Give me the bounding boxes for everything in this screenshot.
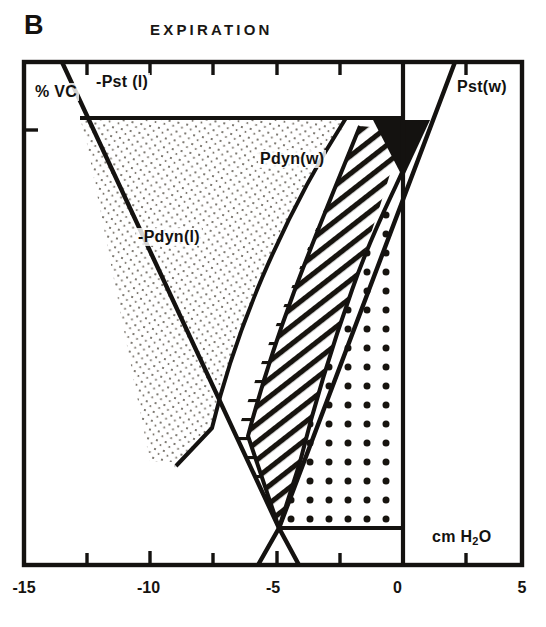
y-axis-label: % VC <box>33 83 79 101</box>
x-tick-label-0: 0 <box>393 580 402 596</box>
label-pst-w: Pst(w) <box>455 78 509 96</box>
unit-cm-h2o-text: cm H2O <box>432 528 492 545</box>
x-tick-label-minus10: -10 <box>137 580 160 596</box>
figure-title: EXPIRATION <box>150 22 273 37</box>
x-tick-label-minus15: -15 <box>12 580 35 596</box>
x-tick-label-minus5: -5 <box>266 580 280 596</box>
label-pdyn-l: -Pdyn(l) <box>136 228 202 246</box>
x-axis-unit-label: cm H2O <box>430 528 494 546</box>
label-pdyn-w: Pdyn(w) <box>258 150 326 168</box>
panel-letter: B <box>24 12 44 39</box>
x-tick-label-5: 5 <box>518 580 527 596</box>
label-pst-l: -Pst (l) <box>94 73 150 91</box>
